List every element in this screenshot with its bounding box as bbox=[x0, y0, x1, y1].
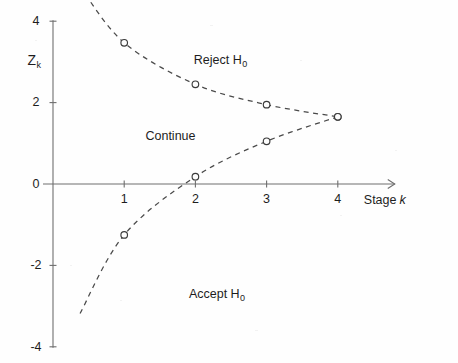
y-axis-title: Zk bbox=[27, 53, 40, 68]
x-tick-label-4: 4 bbox=[334, 193, 341, 206]
x-tick-label-3: 3 bbox=[263, 193, 270, 206]
region-label-continue: Continue bbox=[145, 130, 195, 143]
region-accept-subscript: 0 bbox=[240, 293, 245, 303]
y-tick-label-neg2: -2 bbox=[30, 259, 41, 272]
x-axis-title: Stagek bbox=[364, 194, 406, 207]
lower-boundary-point-2 bbox=[192, 173, 199, 180]
region-label-reject: Reject H0 bbox=[194, 54, 247, 67]
lower-boundary-point-1 bbox=[121, 232, 128, 239]
lower-boundary-point-4 bbox=[335, 114, 342, 121]
region-reject-subscript: 0 bbox=[242, 59, 247, 69]
upper-boundary-point-1 bbox=[121, 39, 128, 46]
boundary-curves-group bbox=[80, 0, 338, 313]
x-tick-label-2: 2 bbox=[192, 193, 199, 206]
region-label-accept: Accept H0 bbox=[189, 288, 245, 301]
y-axis-subscript: k bbox=[37, 60, 42, 70]
y-tick-label-neg4: -4 bbox=[30, 341, 41, 354]
region-reject-text: Reject H bbox=[194, 53, 242, 67]
upper-boundary-point-2 bbox=[192, 81, 199, 88]
sequential-boundary-chart: 4 2 0 -2 -4 1 2 3 4 Zk Stagek Reject H0 … bbox=[0, 0, 458, 363]
y-tick-label-2: 2 bbox=[33, 96, 40, 109]
region-continue-text: Continue bbox=[145, 129, 195, 143]
y-tick-label-4: 4 bbox=[33, 15, 40, 28]
lower-boundary-point-3 bbox=[263, 138, 270, 145]
y-axis-symbol: Z bbox=[27, 52, 36, 68]
x-tick-label-1: 1 bbox=[121, 193, 128, 206]
lower-boundary-curve bbox=[80, 117, 338, 314]
upper-boundary-point-3 bbox=[263, 101, 270, 108]
x-axis-title-text: Stage bbox=[364, 193, 397, 207]
region-accept-text: Accept H bbox=[189, 287, 240, 301]
y-tick-label-0: 0 bbox=[33, 178, 40, 191]
x-axis-title-symbol: k bbox=[396, 193, 405, 207]
